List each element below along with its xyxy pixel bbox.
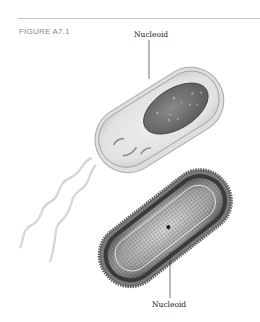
flagellum-icon — [50, 165, 96, 262]
nucleoid-callout-top: Nucleoid — [134, 30, 168, 39]
figure-artwork — [0, 0, 260, 322]
micrograph-cell — [87, 158, 243, 299]
nucleoid-callout-bottom: Nucleoid — [152, 300, 186, 309]
